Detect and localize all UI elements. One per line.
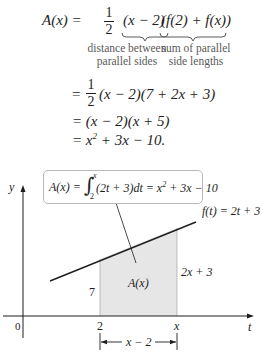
shaded-area: [100, 228, 177, 316]
right-height-label: 2x + 3: [181, 265, 212, 280]
y-axis-label: y: [9, 180, 14, 195]
function-label: f(t) = 2t + 3: [202, 204, 260, 219]
upper-limit: x: [93, 171, 97, 180]
t-axis-arrow: [247, 314, 254, 319]
left-height-label: 7: [89, 285, 95, 300]
origin-label: 0: [15, 320, 21, 332]
area-label: A(x): [128, 276, 149, 291]
tick-x-label: x: [174, 319, 179, 334]
tick-2-label: 2: [97, 319, 103, 334]
width-label: x − 2: [126, 335, 151, 350]
lower-limit: 2: [90, 192, 94, 201]
t-axis-label: t: [248, 320, 251, 335]
y-axis-arrow: [21, 185, 26, 192]
integral-expression: (2t + 3)dt = x2 + 3x − 10: [96, 180, 218, 196]
integral-callout: A(x) = ∫ x 2 (2t + 3)dt = x2 + 3x − 10: [43, 170, 203, 204]
